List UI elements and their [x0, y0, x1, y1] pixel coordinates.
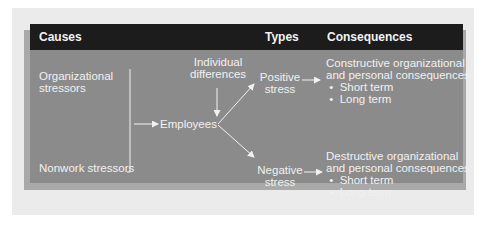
positive-stress-label: Positive stress	[255, 71, 305, 95]
destructive-consequences: Destructive organizational and personal …	[326, 150, 470, 198]
organizational-line1: Organizational	[39, 70, 113, 82]
constructive-consequences: Constructive organizational and personal…	[326, 57, 470, 105]
nonwork-stressors-label: Nonwork stressors	[39, 162, 134, 174]
bullet-text: Short term	[340, 174, 394, 186]
negative-line1: Negative	[257, 164, 302, 176]
negative-stress-label: Negative stress	[255, 164, 305, 188]
constructive-line1: Constructive organizational	[326, 57, 470, 69]
employees-label: Employees	[160, 118, 217, 130]
individual-line2: differences	[190, 68, 246, 80]
individual-differences-label: Individual differences	[190, 56, 246, 80]
bullet-text: Long term	[340, 186, 392, 198]
bullet-item: • Short term	[326, 174, 470, 186]
organizational-line2: stressors	[39, 82, 86, 94]
positive-line2: stress	[265, 83, 296, 95]
destructive-line2: and personal consequences	[326, 162, 470, 174]
bullet-text: Long term	[340, 93, 392, 105]
organizational-stressors-label: Organizational stressors	[39, 70, 113, 94]
bullet-item: • Long term	[326, 186, 470, 198]
destructive-line1: Destructive organizational	[326, 150, 470, 162]
bullet-item: • Long term	[326, 93, 470, 105]
individual-line1: Individual	[194, 56, 243, 68]
positive-line1: Positive	[260, 71, 300, 83]
bullet-text: Short term	[340, 81, 394, 93]
constructive-line2: and personal consequences	[326, 69, 470, 81]
negative-line2: stress	[265, 176, 296, 188]
bullet-item: • Short term	[326, 81, 470, 93]
